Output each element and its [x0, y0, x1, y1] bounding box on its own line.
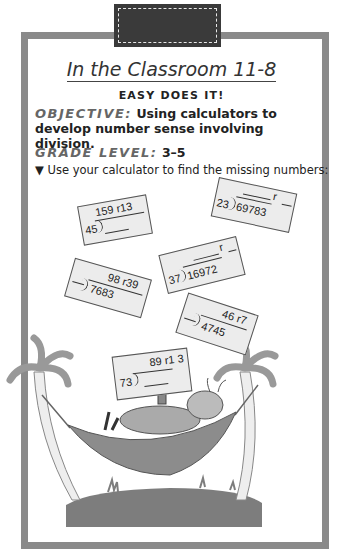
quotient: r: [218, 241, 224, 254]
header-tab: [114, 4, 221, 47]
blank-dividend: [105, 229, 129, 234]
stitched-border: [118, 8, 217, 43]
quotient: 89 r1 3: [149, 352, 184, 368]
dividend: 69783: [235, 200, 267, 218]
division-card: 89 r1 3 73: [112, 348, 193, 401]
quotient: 46 r7: [221, 307, 249, 326]
palm-tree-left-icon: [10, 338, 80, 500]
quotient: r: [272, 190, 278, 203]
grass-icon: [66, 478, 262, 527]
blank-dividend: [144, 383, 168, 387]
